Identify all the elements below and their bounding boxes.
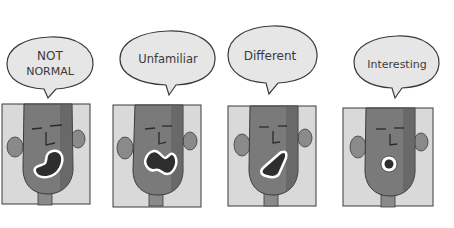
bubble-text-line: NOT	[37, 49, 63, 63]
bubble-text-line: NORMAL	[26, 65, 75, 78]
ear-right	[183, 132, 197, 150]
bubble-text-line: Interesting	[367, 58, 426, 71]
comic-panel-4: Interesting	[340, 0, 454, 228]
ear-left	[117, 137, 133, 159]
ear-left	[7, 137, 23, 157]
face-illustration	[228, 105, 320, 209]
bubble-text-line: Unfamiliar	[138, 52, 198, 66]
mouth-circle	[385, 160, 394, 169]
ear-right	[298, 129, 312, 147]
comic-panel-3: Different	[225, 0, 340, 228]
ear-left	[234, 134, 250, 156]
speech-bubble: Unfamiliar	[118, 29, 218, 97]
face-illustration	[113, 104, 205, 210]
face-illustration	[2, 104, 92, 208]
ear-right	[414, 133, 428, 151]
ear-left	[350, 136, 366, 158]
bubble-text-line: Different	[244, 49, 297, 63]
comic-panel-2: Unfamiliar	[110, 0, 225, 228]
comic-panel-1: NOT NORMAL	[0, 0, 110, 228]
mouth-peanut	[145, 151, 176, 174]
speech-bubble: NOT NORMAL	[4, 34, 96, 100]
face-illustration	[343, 106, 437, 210]
speech-bubble: Different	[226, 24, 320, 96]
speech-bubble: Interesting	[352, 34, 442, 100]
